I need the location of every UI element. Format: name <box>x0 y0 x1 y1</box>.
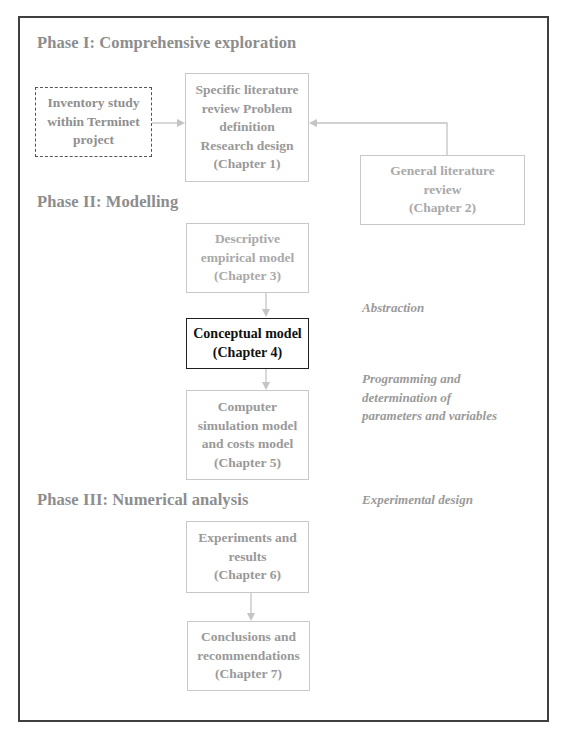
box-line: recommendations <box>197 647 300 666</box>
box-line: empirical model <box>201 249 294 268</box>
box-line: (Chapter 5) <box>198 454 297 473</box>
box-chapter-3: Descriptive empirical model (Chapter 3) <box>186 223 309 293</box>
annotation-programming: Programming and determination of paramet… <box>362 370 497 426</box>
annotation-line: Abstraction <box>362 300 424 315</box>
box-line: (Chapter 2) <box>390 199 494 218</box>
box-line: Conclusions and <box>197 628 300 647</box>
box-line: Specific literature <box>196 81 299 100</box>
box-line: Descriptive <box>201 230 294 249</box>
annotation-line: Experimental design <box>362 492 473 507</box>
box-line: Inventory study <box>47 94 140 113</box>
box-line: (Chapter 4) <box>193 344 302 363</box>
box-chapter-7: Conclusions and recommendations (Chapter… <box>187 621 310 691</box>
phase-1-title: Phase I: Comprehensive exploration <box>37 33 296 53</box>
annotation-line: parameters and variables <box>362 407 497 426</box>
box-line: review <box>390 181 494 200</box>
box-line: Experiments and <box>198 529 297 548</box>
box-line: review Problem <box>196 100 299 119</box>
annotation-abstraction: Abstraction <box>362 299 424 318</box>
box-line: Research design <box>196 137 299 156</box>
box-chapter-6: Experiments and results (Chapter 6) <box>186 521 309 593</box>
box-line: definition <box>196 118 299 137</box>
annotation-experimental-design: Experimental design <box>362 491 473 510</box>
box-line: results <box>198 548 297 567</box>
box-line: (Chapter 7) <box>197 665 300 684</box>
box-line: Computer <box>198 398 297 417</box>
box-line: within Terminet <box>47 113 140 132</box>
box-chapter-1: Specific literature review Problem defin… <box>185 73 309 182</box>
phase-2-title: Phase II: Modelling <box>37 192 178 212</box>
box-line: project <box>47 131 140 150</box>
box-line: (Chapter 3) <box>201 267 294 286</box>
annotation-line: Programming and <box>362 370 497 389</box>
box-line: and costs model <box>198 435 297 454</box>
box-line: Conceptual model <box>193 325 302 344</box>
box-chapter-2: General literature review (Chapter 2) <box>360 155 525 225</box>
annotation-line: determination of <box>362 389 497 408</box>
box-chapter-5: Computer simulation model and costs mode… <box>186 390 309 480</box>
box-line: simulation model <box>198 417 297 436</box>
box-line: (Chapter 1) <box>196 155 299 174</box>
box-inventory-study: Inventory study within Terminet project <box>35 87 152 157</box>
box-line: General literature <box>390 162 494 181</box>
phase-3-title: Phase III: Numerical analysis <box>37 490 248 510</box>
box-chapter-4: Conceptual model (Chapter 4) <box>186 318 309 369</box>
box-line: (Chapter 6) <box>198 566 297 585</box>
